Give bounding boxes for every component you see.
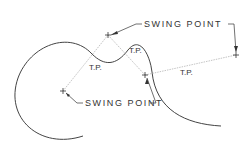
tangent-point-label-right: T.P. [180, 68, 193, 77]
arrow-icon [111, 31, 118, 35]
swing-point-diagram: SWING POINT SWING POINT T.P. T.P. T.P. [0, 0, 251, 149]
swing-point-label-top: SWING POINT [144, 19, 222, 29]
swing-point-marker-right [233, 52, 239, 58]
arrow-icon [234, 46, 238, 52]
radius-line-middle [108, 35, 145, 75]
main-curve [15, 42, 221, 139]
swing-point-label-bottom: SWING POINT [85, 98, 163, 108]
tangent-point-label-left: T.P. [89, 63, 102, 72]
swing-point-marker-middle [142, 72, 148, 78]
tangent-point-label-middle: T.P. [129, 46, 142, 55]
